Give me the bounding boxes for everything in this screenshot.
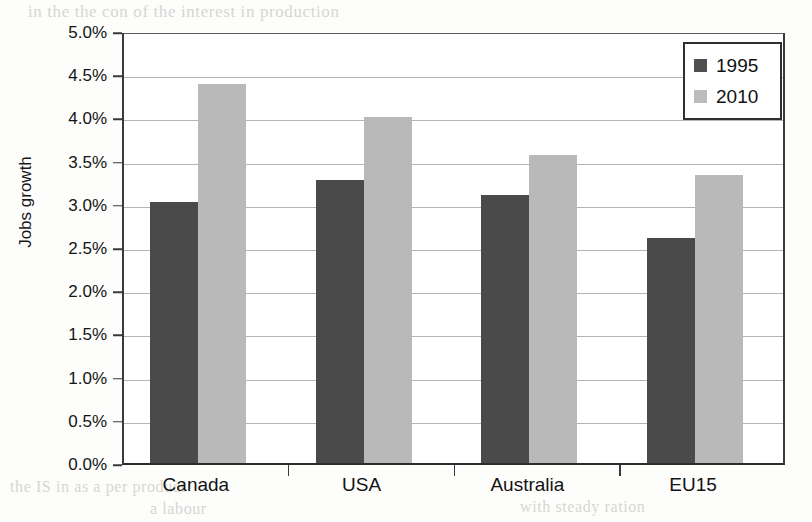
- legend-swatch-icon: [694, 59, 707, 72]
- bar-australia-1995: [481, 195, 529, 463]
- y-axis-tick-label: 2.5%: [43, 239, 107, 259]
- bar-usa-2010: [364, 117, 412, 463]
- y-axis-tick-mark: [113, 291, 122, 293]
- x-axis-tick-mark: [454, 465, 456, 476]
- y-axis-tick-mark: [113, 32, 122, 34]
- y-axis-tick-mark: [113, 335, 122, 337]
- y-axis-tick-mark: [113, 205, 122, 207]
- bar-eu15-2010: [695, 175, 743, 463]
- y-axis-tick-label: 1.5%: [43, 325, 107, 345]
- y-axis-tick-label: 0.5%: [43, 412, 107, 432]
- y-axis-tick-mark: [113, 248, 122, 250]
- y-axis-tick-mark: [113, 421, 122, 423]
- y-axis-tick-label: 1.0%: [43, 369, 107, 389]
- y-axis-tick-label: 4.5%: [43, 66, 107, 86]
- legend-item-1995: 1995: [694, 56, 758, 75]
- legend-label: 1995: [716, 56, 758, 75]
- x-axis-tick-mark: [619, 465, 621, 476]
- y-axis-tick-label: 0.0%: [43, 455, 107, 475]
- legend-item-2010: 2010: [694, 87, 758, 106]
- y-axis-tick-mark: [113, 162, 122, 164]
- y-axis-title: Jobs growth: [16, 132, 36, 272]
- y-axis-tick-label: 2.0%: [43, 282, 107, 302]
- y-axis-tick-label: 4.0%: [43, 109, 107, 129]
- y-axis-tick-label: 5.0%: [43, 23, 107, 43]
- y-axis-tick-mark: [113, 119, 122, 121]
- bar-australia-2010: [529, 155, 577, 463]
- bar-usa-1995: [316, 180, 364, 463]
- x-axis-label-usa: USA: [342, 474, 381, 496]
- y-axis-tick-mark: [113, 75, 122, 77]
- legend-label: 2010: [716, 87, 758, 106]
- x-axis-label-canada: Canada: [163, 474, 230, 496]
- bar-canada-2010: [198, 84, 246, 463]
- bar-chart: Jobs growth 0.0%0.5%1.0%1.5%2.0%2.5%3.0%…: [0, 0, 812, 522]
- y-axis-tick-mark: [113, 378, 122, 380]
- bar-eu15-1995: [647, 238, 695, 463]
- y-axis-tick-label: 3.0%: [43, 196, 107, 216]
- y-axis-tick-label: 3.5%: [43, 153, 107, 173]
- legend-swatch-icon: [694, 90, 707, 103]
- x-axis-label-eu15: EU15: [669, 474, 717, 496]
- chart-legend: 1995 2010: [683, 42, 782, 120]
- x-axis-label-australia: Australia: [490, 474, 564, 496]
- y-axis-tick-mark: [113, 464, 122, 466]
- bar-canada-1995: [150, 202, 198, 463]
- x-axis-tick-mark: [288, 465, 290, 476]
